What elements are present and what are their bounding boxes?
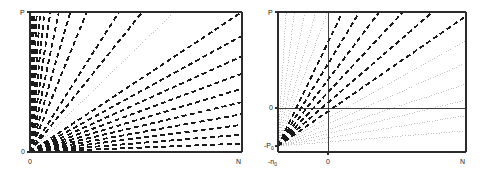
right-x-origin-label: 0 [326,158,330,165]
right-panel-plot [0,0,492,180]
right-x-end-label: N [460,158,465,165]
right-y-tick-zero: 0 [269,104,273,111]
right-y-bottom-label: -P0 [264,142,274,149]
right-y-axis-label: P [268,9,273,16]
figure-canvas: P 0 0 N P 0 -P0 -n0 0 N [0,0,492,180]
right-panel: P 0 -P0 -n0 0 N [0,0,492,180]
right-x-left-label: -n0 [268,158,277,165]
